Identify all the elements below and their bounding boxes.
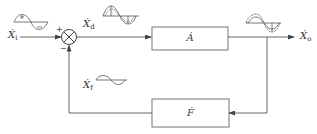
plus-sign: + [56, 26, 63, 34]
summing-junction [62, 30, 77, 45]
output-signal-label: Ẋo [300, 31, 311, 43]
feedback-waveform-icon [96, 76, 127, 85]
error-signal-label: Ẋd [83, 19, 95, 31]
feedback-block-label: Ḟ [152, 108, 229, 118]
minus-sign: − [60, 45, 67, 53]
output-waveform-icon [246, 14, 281, 32]
error-waveform-icon [103, 6, 139, 24]
forward-block-label: Ȧ [152, 33, 228, 43]
input-signal-label: Ẋi [8, 30, 17, 42]
input-waveform-icon [14, 15, 48, 30]
feedback-signal-label: Ẋf [83, 80, 93, 92]
